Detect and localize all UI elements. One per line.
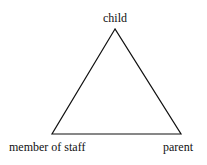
vertex-label-parent: parent: [163, 141, 193, 153]
relationship-triangle: [52, 29, 181, 134]
vertex-label-member-of-staff: member of staff: [9, 141, 85, 153]
vertex-label-child: child: [103, 12, 127, 24]
